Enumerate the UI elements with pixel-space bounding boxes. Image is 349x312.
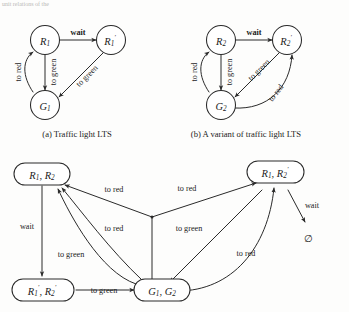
edge-a-to-red [25,52,33,92]
edge-label-b-rp-to-green: to green [246,57,271,82]
edge-c-to-green-right [170,190,262,282]
caption-b: (b) A variant of traffic light LTS [191,129,301,139]
figure-page: unit relations of the R1 R1′ G1 wait to … [0,0,349,312]
edge-label-a-to-green: to green [49,59,58,86]
node-c-G1G2-label: G1, G2 [148,285,176,298]
edge-label-c-to-green-right: to green [176,224,203,233]
edge-c-wait-empty [288,190,305,222]
edge-label-c-to-green-curve: to green [58,250,85,259]
caption-a: (a) Traffic light LTS [42,129,112,139]
edge-b-to-red [201,52,209,92]
node-c-R1R2-label: R1, R2 [28,169,55,182]
node-c-empty-set: ∅ [304,233,313,244]
edge-c-to-red-curve [62,188,142,280]
edge-c-to-green-curve [58,189,136,284]
edge-label-c-to-red-right-curve: to red [237,249,256,258]
edge-label-c-to-red-curve: to red [105,224,124,233]
edge-label-b-wait: wait [246,28,261,37]
top-text-fragment: unit relations of the [2,1,49,7]
edge-label-b-to-green: to green [225,59,234,86]
figure-b: R2 R2′ G2 wait to red to green to green … [190,26,302,120]
edge-junction-dot [151,216,154,219]
edge-label-c-wait-empty: wait [305,201,320,210]
edge-label-b-to-red: to red [190,63,199,82]
lts-figures-svg: unit relations of the R1 R1′ G1 wait to … [0,0,349,312]
edge-label-a-to-red: to red [14,63,23,82]
edge-label-a-rp-to-green: to green [74,63,99,88]
figure-a: R1 R1′ G1 wait to red to green to green [14,26,126,120]
edge-label-c-to-green-bottom: to green [91,286,118,295]
edge-label-c-wait-left: wait [20,222,35,231]
edge-label-c-to-red-junction-right: to red [178,184,197,193]
edge-label-c-to-red-junction-left: to red [105,185,124,194]
edge-label-a-wait: wait [70,28,85,37]
figure-c: R1, R2 R1, R2′ R1′, R2′ G1, G2 ∅ wait to… [12,161,320,301]
